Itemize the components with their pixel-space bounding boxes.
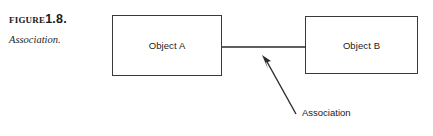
annotation-arrowhead [262,55,271,69]
object-box-b: Object B [305,16,418,74]
figure-title-word: Figure [9,11,45,26]
object-box-b-label: Object B [343,40,380,51]
object-box-a-label: Object A [149,40,186,51]
annotation-label: Association [302,107,351,118]
figure-title: Figure1.8. [9,12,104,27]
annotation-arrow-shaft [266,60,296,114]
object-box-a: Object A [112,15,222,76]
figure-title-number: 1.8. [45,12,67,26]
figure-subtitle: Association. [9,34,104,47]
figure-container: Figure1.8. Association. Object A Object … [0,0,433,136]
figure-caption-block: Figure1.8. Association. [9,12,104,46]
